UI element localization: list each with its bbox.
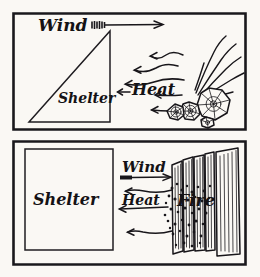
top-shelter-label: Shelter	[58, 90, 117, 106]
log-end-tiny	[201, 117, 214, 128]
bottom-fire-logs: Fire	[164, 148, 240, 256]
diagram-canvas: Shelter Wind Heat	[0, 0, 260, 277]
bottom-wind-label: Wind	[122, 158, 166, 176]
log-upright-wide	[216, 148, 240, 256]
top-wind-label: Wind	[38, 15, 88, 35]
bottom-shelter-label: Shelter	[33, 190, 100, 209]
bottom-heat-label: Heat	[121, 192, 160, 208]
bottom-fire-label: Fire	[176, 190, 215, 210]
figure-root: Shelter Wind Heat	[0, 0, 260, 277]
